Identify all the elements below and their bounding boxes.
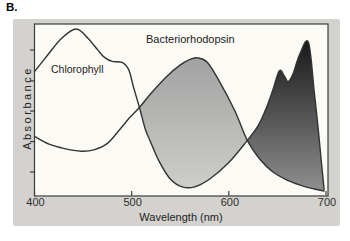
x-tick-label: 600 xyxy=(221,197,239,208)
bacteriorhodopsin-label: Bacteriorhodopsin xyxy=(146,33,235,45)
figure: B. Chlorophyll Bacteriorhodopsin Absorba… xyxy=(0,0,350,241)
x-axis-label: Wavelength (nm) xyxy=(34,211,328,223)
x-tick-label: 700 xyxy=(318,197,336,208)
x-tick-label: 500 xyxy=(123,197,141,208)
x-tick-label: 400 xyxy=(26,197,44,208)
chlorophyll-label: Chlorophyll xyxy=(51,63,104,75)
y-axis-label: Absorbance xyxy=(21,66,33,150)
